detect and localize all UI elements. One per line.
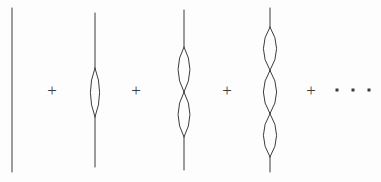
bubble-arc-left xyxy=(263,114,270,157)
bubble-arc-left xyxy=(263,27,270,70)
diagram-two-bubble-propagator xyxy=(178,10,190,170)
bubble-arc-left xyxy=(178,92,184,137)
plus-operator: + xyxy=(306,82,316,99)
bubble-arc-right xyxy=(270,114,277,157)
bubble-arc-left xyxy=(178,47,184,92)
bubble-arc-right xyxy=(270,70,277,113)
diagram-three-bubble-propagator xyxy=(263,8,276,172)
ellipsis-dot xyxy=(352,89,355,92)
plus-operator: + xyxy=(131,82,141,99)
bubble-arc-left xyxy=(90,68,95,117)
bubble-arc-right xyxy=(95,68,100,117)
diagram-one-bubble-propagator xyxy=(90,13,99,167)
ellipsis-dot xyxy=(336,89,339,92)
diagram-layer xyxy=(0,0,381,182)
bubble-arc-right xyxy=(184,92,190,137)
figure-canvas: ++++ xyxy=(0,0,381,182)
bubble-arc-right xyxy=(270,27,277,70)
ellipsis-dot xyxy=(368,89,371,92)
plus-operator: + xyxy=(222,82,232,99)
diagram-svg xyxy=(0,0,381,182)
bubble-arc-left xyxy=(263,70,270,113)
plus-operator: + xyxy=(47,82,57,99)
bubble-arc-right xyxy=(184,47,190,92)
